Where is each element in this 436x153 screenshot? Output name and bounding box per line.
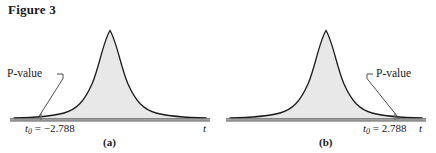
density-fill-a [14, 31, 206, 121]
t0-label-a-eq: = [32, 122, 44, 134]
t0-label-b-value: 2.788 [382, 122, 407, 134]
x-axis-label-a: t [203, 122, 206, 134]
panel-caption-a: (a) [103, 136, 116, 148]
pvalue-leader-a [57, 74, 63, 79]
pvalue-label-a: P-value [7, 67, 42, 79]
pvalue-leader-line-a [38, 79, 63, 119]
t0-label-b-eq: = [370, 122, 382, 134]
figure-container: Figure 3 P-value t0 = −2.788 t (a) [0, 0, 436, 153]
panel-b: P-value t0 = 2.788 t (b) [218, 0, 436, 153]
t0-label-b: t0 = 2.788 [363, 122, 407, 136]
pvalue-label-b: P-value [376, 67, 411, 79]
t0-label-a: t0 = −2.788 [25, 122, 75, 136]
panel-caption-b: (b) [319, 136, 332, 148]
pvalue-leader-b [367, 74, 373, 79]
panel-a: P-value t0 = −2.788 t (a) [0, 0, 218, 153]
t0-label-a-value: −2.788 [44, 122, 75, 134]
x-axis-label-b: t [419, 122, 422, 134]
